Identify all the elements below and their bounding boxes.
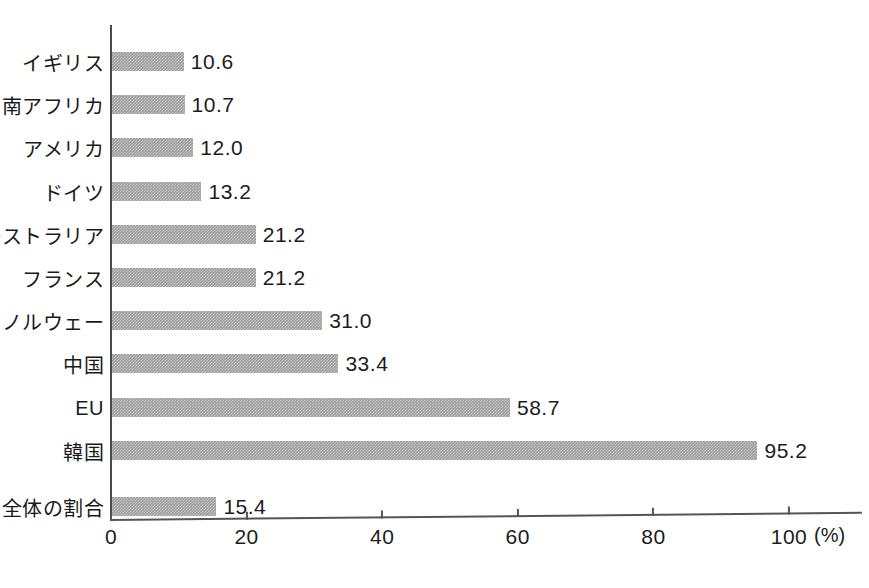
x-axis-tick-label: 20 <box>234 525 258 549</box>
bar-row: EU58.7 <box>0 398 869 418</box>
category-label: ノルウェー <box>2 307 105 336</box>
bar <box>112 182 201 201</box>
x-axis-tick <box>517 509 519 517</box>
bar-value-label: 10.6 <box>191 50 234 74</box>
x-axis-tick <box>381 510 383 518</box>
bar <box>112 354 338 373</box>
bar <box>112 398 510 417</box>
x-axis-tick <box>110 513 112 521</box>
x-axis-unit-label: (%) <box>814 524 845 547</box>
plot-area: イギリス10.6南アフリカ10.7アメリカ12.0ドイツ13.2ーストラリア21… <box>0 0 869 588</box>
bar <box>112 225 256 244</box>
bar-value-label: 33.4 <box>345 352 388 376</box>
category-label: イギリス <box>22 48 104 77</box>
x-axis-tick-label: 60 <box>506 525 530 549</box>
x-axis-tick-label: 80 <box>641 525 665 549</box>
bar <box>112 497 216 516</box>
x-axis-tick-label: 40 <box>370 525 394 549</box>
category-label: EU <box>75 396 104 419</box>
x-axis-tick <box>652 508 654 516</box>
bar-row: アメリカ12.0 <box>0 138 869 158</box>
bar-row: 中国33.4 <box>0 354 869 374</box>
x-axis-tick-label: 100 <box>771 525 808 549</box>
bar-chart: イギリス10.6南アフリカ10.7アメリカ12.0ドイツ13.2ーストラリア21… <box>0 0 869 588</box>
bar-value-label: 21.2 <box>263 266 306 290</box>
x-axis-tick-label: 0 <box>105 525 117 549</box>
category-label: ーストラリア <box>0 220 104 249</box>
bar-value-label: 12.0 <box>200 136 243 160</box>
bar <box>112 441 757 460</box>
category-label: ドイツ <box>43 177 105 206</box>
bar <box>112 311 322 330</box>
x-axis-tick <box>788 506 790 514</box>
bar-row: イギリス10.6 <box>0 52 869 72</box>
category-label: 中国 <box>63 350 104 379</box>
category-label: フランス <box>22 264 104 293</box>
bar <box>112 268 256 287</box>
bar-value-label: 31.0 <box>329 309 372 333</box>
category-label: 韓国 <box>63 436 104 465</box>
bar-row: ドイツ13.2 <box>0 182 869 202</box>
bar <box>112 52 184 71</box>
bar-row: ノルウェー31.0 <box>0 311 869 331</box>
category-label: 南アフリカ <box>2 91 105 120</box>
category-label: アメリカ <box>23 134 104 163</box>
bar-value-label: 95.2 <box>764 439 807 463</box>
bar-row: ーストラリア21.2 <box>0 225 869 245</box>
bar-row: 南アフリカ10.7 <box>0 95 869 115</box>
x-axis-tick <box>246 512 248 520</box>
bar-value-label: 58.7 <box>517 396 560 420</box>
bar-value-label: 13.2 <box>208 180 251 204</box>
category-label: 全体の割合 <box>2 493 105 522</box>
bar <box>112 95 185 114</box>
bar <box>112 138 193 157</box>
bar-row: フランス21.2 <box>0 268 869 288</box>
bar-row: 韓国95.2 <box>0 441 869 461</box>
bar-value-label: 10.7 <box>192 93 235 117</box>
bar-value-label: 21.2 <box>263 223 306 247</box>
